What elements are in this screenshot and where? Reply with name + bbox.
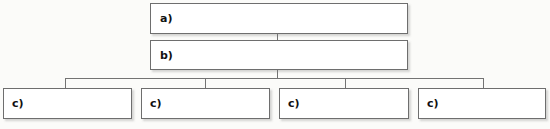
connector-bus-to-c1 — [65, 78, 66, 88]
node-label-b: b) — [160, 50, 173, 61]
blank-answer-line-c-2[interactable] — [169, 98, 260, 109]
blank-answer-line-c-3[interactable] — [307, 98, 399, 109]
node-box-a[interactable]: a) — [150, 3, 408, 34]
connector-bus-to-c4 — [483, 78, 484, 88]
node-label-a: a) — [160, 13, 172, 24]
connector-bus-to-c2 — [205, 78, 206, 88]
connector-horizontal-bus — [65, 78, 483, 79]
node-box-c-2[interactable]: c) — [141, 88, 270, 119]
node-label-c-4: c) — [427, 98, 439, 109]
blank-answer-line-a[interactable] — [179, 13, 396, 24]
node-box-c-4[interactable]: c) — [418, 88, 546, 119]
blank-answer-line-b[interactable] — [180, 50, 396, 61]
connector-bus-to-c3 — [345, 78, 346, 88]
blank-answer-line-c-4[interactable] — [446, 98, 536, 109]
blank-answer-line-c-1[interactable] — [31, 98, 122, 109]
connector-b-to-bus — [277, 70, 278, 78]
node-label-c-1: c) — [12, 98, 24, 109]
node-box-c-1[interactable]: c) — [3, 88, 132, 119]
node-box-c-3[interactable]: c) — [279, 88, 409, 119]
hierarchy-diagram: a) b) c) c) c) c) — [0, 0, 550, 129]
node-label-c-3: c) — [288, 98, 300, 109]
node-label-c-2: c) — [150, 98, 162, 109]
node-box-b[interactable]: b) — [150, 40, 408, 70]
